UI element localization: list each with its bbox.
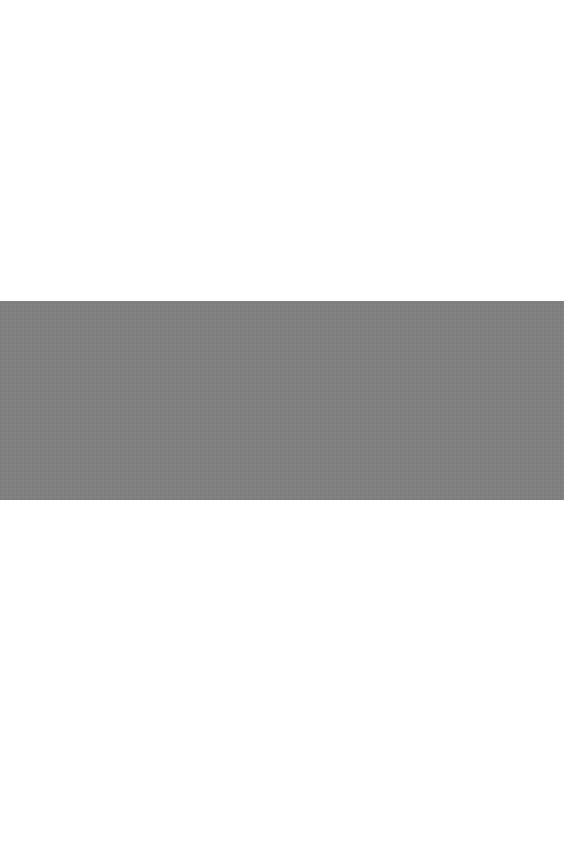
blank-page bbox=[0, 0, 564, 863]
gray-placeholder-band bbox=[0, 301, 564, 500]
bottom-blank-area bbox=[0, 500, 564, 863]
top-blank-area bbox=[0, 0, 564, 301]
